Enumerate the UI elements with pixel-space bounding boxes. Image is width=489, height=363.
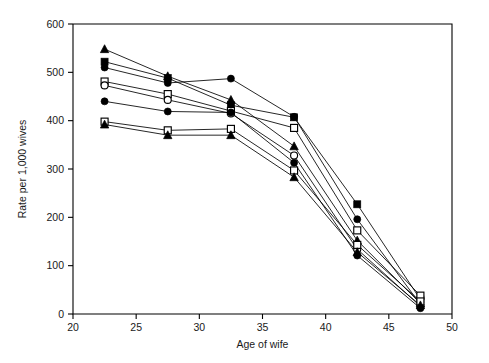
y-tick-label: 600 <box>46 18 64 30</box>
marker-open-square <box>354 227 361 234</box>
fertility-rate-line-chart: 010020030040050060020253035404550Age of … <box>0 0 489 363</box>
x-axis-title: Age of wife <box>237 338 289 350</box>
marker-filled-circle <box>164 108 171 115</box>
series-lines <box>105 49 421 308</box>
chart-figure: 010020030040050060020253035404550Age of … <box>0 0 489 363</box>
y-tick-label: 500 <box>46 66 64 78</box>
marker-open-circle <box>291 152 298 159</box>
y-tick-label: 300 <box>46 163 64 175</box>
marker-filled-circle <box>291 159 298 166</box>
y-tick-label: 0 <box>58 308 64 320</box>
y-tick-label: 200 <box>46 211 64 223</box>
y-tick-label: 100 <box>46 259 64 271</box>
series-line-series-8 <box>105 125 421 306</box>
marker-filled-circle <box>227 109 234 116</box>
marker-open-square <box>291 124 298 131</box>
x-tick-label: 45 <box>383 321 395 333</box>
marker-filled-circle <box>291 113 298 120</box>
x-tick-label: 30 <box>193 321 205 333</box>
y-axis-title: Rate per 1,000 wives <box>16 120 28 219</box>
x-tick-label: 35 <box>257 321 269 333</box>
series-line-series-7 <box>105 122 421 302</box>
series-series-7 <box>101 118 424 305</box>
x-tick-label: 20 <box>67 321 79 333</box>
y-axis: 0100200300400500600 <box>46 18 73 320</box>
x-tick-label: 50 <box>446 321 458 333</box>
x-tick-label: 40 <box>320 321 332 333</box>
x-axis: 20253035404550 <box>67 314 458 333</box>
marker-open-circle <box>101 82 108 89</box>
marker-filled-circle <box>164 79 171 86</box>
marker-filled-triangle <box>290 142 298 150</box>
series-series-5 <box>101 82 424 310</box>
series-line-series-5 <box>105 85 421 306</box>
marker-filled-triangle <box>100 45 108 53</box>
marker-filled-square <box>354 201 361 208</box>
series-series-6 <box>101 98 424 312</box>
marker-filled-circle <box>227 75 234 82</box>
series-series-8 <box>100 120 424 309</box>
marker-filled-circle <box>101 64 108 71</box>
marker-filled-circle <box>101 98 108 105</box>
y-tick-label: 400 <box>46 114 64 126</box>
series-series-2 <box>101 58 424 303</box>
x-tick-label: 25 <box>130 321 142 333</box>
marker-open-circle <box>164 96 171 103</box>
marker-filled-circle <box>354 216 361 223</box>
